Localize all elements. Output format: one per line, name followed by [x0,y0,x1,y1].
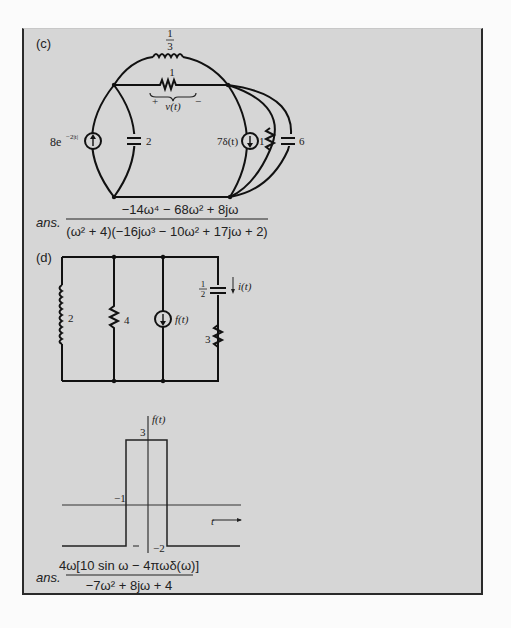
tick-mid: −1 [114,492,126,504]
circuit-figures: (c) 1 3 1 + − v(t) 8e −2|t| 2 7δ(t) [0,0,511,628]
answer-c-numerator: −14ω⁴ − 68ω² + 8jω [122,202,239,217]
pulse-graph [62,416,242,553]
part-d-label: (d) [36,250,52,265]
source-right-label: 7δ(t) [217,135,238,148]
graph-y-label: f(t) [152,413,166,426]
capacitor-den: 2 [201,289,206,299]
current-label: i(t) [238,280,252,293]
resistor-top [114,80,228,89]
source-left-label: 8e [50,135,61,149]
answer-d-prefix: ans. [36,570,61,585]
answer-d-numerator: 4ω[10 sin ω − 4πωδ(ω)] [59,558,199,573]
tick-bottom-right: −2 [153,542,165,554]
inductor-left-value: 2 [68,312,74,324]
answer-d-denominator: −7ω² + 8jω + 4 [86,578,172,593]
inductor-left [60,285,63,344]
resistor-right-value: 1 [259,135,265,147]
inductor-top-den: 3 [167,40,173,52]
voltage-minus: − [195,95,201,107]
capacitor-num: 1 [201,279,206,289]
answer-c-prefix: ans. [36,215,61,230]
source-left-exponent: −2|t| [66,133,78,141]
capacitor-left-value: 2 [146,135,152,147]
resistor-right-d-value: 3 [205,333,211,345]
inductor-top-num: 1 [167,27,173,39]
source-f-label: f(t) [175,313,189,326]
voltage-label: v(t) [165,100,181,113]
resistor-top-value: 1 [169,66,175,78]
resistor-mid-value: 4 [124,314,130,326]
graph-x-label: t [211,515,215,527]
voltage-plus: + [152,95,158,107]
tick-top: 3 [140,426,146,438]
part-c-label: (c) [36,36,51,51]
answer-c-denominator: (ω² + 4)(−16jω³ − 10ω² + 17jω + 2) [66,224,267,239]
capacitor-right-value: 6 [299,135,305,147]
